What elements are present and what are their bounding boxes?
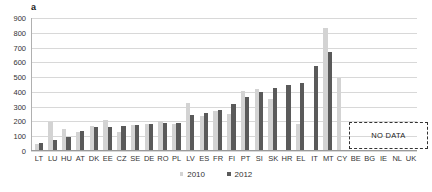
x-axis-tick-label-MT: MT: [321, 152, 335, 165]
bar-chart: a 9008007006005004003002001000 NO DATA L…: [0, 0, 432, 192]
x-axis-tick-label-SI: SI: [253, 152, 267, 165]
x-axis-tick-label-CZ: CZ: [115, 152, 129, 165]
x-axis-tick-labels: LTLUHUATDKEECZSEDEROPLLVESFRFIPTSISKHREL…: [31, 152, 418, 165]
bar-group: [115, 18, 129, 151]
bar-IT-2012: [314, 66, 318, 151]
y-axis-tick-label: 400: [13, 87, 26, 96]
x-axis-tick-label-LU: LU: [46, 152, 60, 165]
y-axis-tick-label: 300: [13, 102, 26, 111]
bar-group: [170, 18, 184, 151]
x-axis-tick-label-ES: ES: [197, 152, 211, 165]
bar-HU-2012: [66, 137, 70, 151]
bar-group: [321, 18, 335, 151]
legend-label-2010: 2010: [187, 170, 205, 179]
bar-FR-2012: [218, 110, 222, 151]
bar-AT-2012: [80, 131, 84, 151]
bar-group: [335, 18, 349, 151]
bar-group: [87, 18, 101, 151]
bar-group: [225, 18, 239, 151]
bar-PL-2012: [176, 123, 180, 151]
x-axis-line: [31, 150, 417, 151]
bar-group: [266, 18, 280, 151]
bar-EL-2012: [300, 83, 304, 151]
bar-SK-2012: [273, 88, 277, 151]
legend-swatch-2012: [227, 172, 231, 176]
x-axis-tick-label-SE: SE: [128, 152, 142, 165]
x-axis-tick-label-IT: IT: [308, 152, 322, 165]
y-axis-tick-label: 0: [22, 147, 26, 156]
bar-group: [280, 18, 294, 151]
x-axis-tick-label-SK: SK: [266, 152, 280, 165]
x-axis-tick-label-NL: NL: [390, 152, 404, 165]
bar-group: [183, 18, 197, 151]
x-axis-tick-label-AT: AT: [73, 152, 87, 165]
x-axis-tick-label-DE: DE: [142, 152, 156, 165]
bar-group: [197, 18, 211, 151]
x-axis-tick-label-FR: FR: [211, 152, 225, 165]
bar-DE-2012: [149, 124, 153, 151]
y-axis-tick-label: 700: [13, 43, 26, 52]
legend-label-2012: 2012: [235, 170, 253, 179]
bar-PT-2012: [245, 97, 249, 151]
bar-MT-2012: [328, 52, 332, 151]
x-axis-tick-label-EE: EE: [101, 152, 115, 165]
x-axis-tick-label-FI: FI: [225, 152, 239, 165]
no-data-label: NO DATA: [371, 131, 405, 140]
legend-swatch-2010: [180, 172, 184, 176]
bar-group: [293, 18, 307, 151]
legend-item-2012: 2012: [227, 170, 252, 179]
bar-group: [32, 18, 46, 151]
bar-group: [156, 18, 170, 151]
x-axis-tick-label-PT: PT: [239, 152, 253, 165]
y-axis-tick-label: 100: [13, 132, 26, 141]
bar-FI-2012: [231, 104, 235, 151]
bar-CY-2010: [337, 78, 341, 151]
no-data-annotation: NO DATA: [349, 122, 428, 149]
bar-LV-2012: [190, 115, 194, 151]
bar-DK-2012: [94, 127, 98, 151]
x-axis-tick-label-UK: UK: [404, 152, 418, 165]
y-axis-tick-label: 800: [13, 28, 26, 37]
panel-title: a: [31, 2, 36, 12]
bar-group: [211, 18, 225, 151]
x-axis-tick-label-BG: BG: [363, 152, 377, 165]
bar-group: [142, 18, 156, 151]
bar-group: [307, 18, 321, 151]
x-axis-tick-label-LV: LV: [184, 152, 198, 165]
y-axis-tick-label: 900: [13, 14, 26, 23]
bar-HR-2012: [286, 85, 290, 151]
bar-group: [252, 18, 266, 151]
x-axis-tick-label-HR: HR: [280, 152, 294, 165]
bar-group: [128, 18, 142, 151]
x-axis-tick-label-RO: RO: [156, 152, 170, 165]
bar-RO-2012: [163, 123, 167, 151]
bar-SI-2012: [259, 92, 263, 151]
x-axis-tick-label-LT: LT: [32, 152, 46, 165]
bar-ES-2012: [204, 113, 208, 151]
bar-CZ-2012: [121, 126, 125, 151]
x-axis-tick-label-DK: DK: [87, 152, 101, 165]
x-axis-tick-label-IE: IE: [377, 152, 391, 165]
bar-group: [60, 18, 74, 151]
y-axis-tick-label: 600: [13, 58, 26, 67]
bar-group: [238, 18, 252, 151]
bar-EE-2012: [108, 127, 112, 151]
chart-legend: 20102012: [0, 167, 432, 181]
x-axis-tick-label-PL: PL: [170, 152, 184, 165]
bar-group: [46, 18, 60, 151]
x-axis-tick-label-CY: CY: [335, 152, 349, 165]
x-axis-tick-label-BE: BE: [349, 152, 363, 165]
bar-SE-2012: [135, 125, 139, 151]
bar-group: [73, 18, 87, 151]
y-axis-tick-label: 200: [13, 117, 26, 126]
x-axis-tick-label-HU: HU: [60, 152, 74, 165]
y-axis-tick-label: 500: [13, 73, 26, 82]
x-axis-tick-label-EL: EL: [294, 152, 308, 165]
legend-item-2010: 2010: [180, 170, 205, 179]
bar-group: [101, 18, 115, 151]
y-axis-tick-labels: 9008007006005004003002001000: [0, 18, 29, 151]
